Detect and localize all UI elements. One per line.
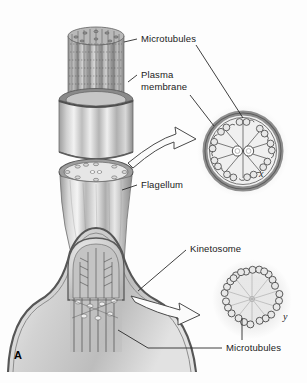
inset-axoneme-9plus2 [197, 105, 289, 197]
label-microtubules-bottom: Microtubules [226, 342, 281, 354]
panel-label-a: A [14, 349, 22, 361]
kinetosome-basal-body [68, 238, 124, 352]
plasma-membrane-sleeve [59, 89, 133, 160]
label-plasma-membrane: Plasma membrane [141, 69, 187, 92]
inset-key-y: y [283, 311, 287, 322]
inset-key-x: x [259, 168, 263, 179]
label-flagellum: Flagellum [141, 179, 183, 191]
figure-artwork [0, 0, 307, 383]
inset-kinetosome-triplets [212, 259, 292, 339]
label-microtubules-top: Microtubules [141, 33, 196, 45]
label-kinetosome: Kinetosome [190, 243, 241, 255]
figure-flagellum-ultrastructure: Microtubules Plasma membrane Flagellum K… [0, 0, 307, 383]
